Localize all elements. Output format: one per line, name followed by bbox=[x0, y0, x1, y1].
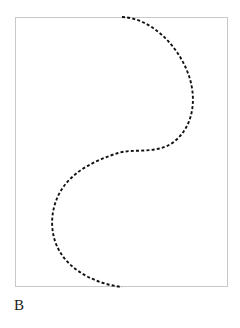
dashed-s-curve bbox=[52, 17, 193, 287]
figure-panel: B bbox=[0, 0, 240, 328]
panel-label: B bbox=[14, 297, 24, 314]
figure-canvas bbox=[0, 0, 240, 328]
